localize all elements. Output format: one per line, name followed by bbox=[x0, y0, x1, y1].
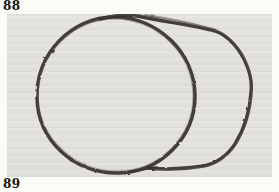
drawn-circle-smudge bbox=[38, 19, 193, 171]
photo-paper bbox=[7, 14, 272, 177]
figure-number-top: 88 bbox=[3, 0, 21, 12]
drawn-circle-stroke bbox=[37, 17, 195, 173]
book-page: 88 89 bbox=[0, 0, 279, 192]
cylinder-drawing bbox=[7, 14, 272, 177]
figure-number-bottom: 89 bbox=[3, 178, 21, 190]
